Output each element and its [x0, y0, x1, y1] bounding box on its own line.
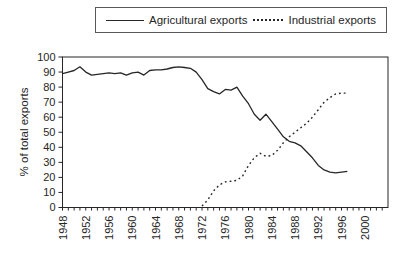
x-tick-label: 1980: [243, 216, 255, 240]
industrial-exports-line: [202, 93, 347, 206]
y-tick-label: 70: [43, 96, 55, 108]
x-tick-label: 1956: [103, 216, 115, 240]
x-tick-label: 1968: [173, 216, 185, 240]
x-tick-label: 1988: [289, 216, 301, 240]
x-tick-label: 1972: [196, 216, 208, 240]
y-tick-label: 0: [49, 201, 55, 213]
y-tick-label: 60: [43, 111, 55, 123]
x-tick-label: 1964: [150, 216, 162, 240]
x-tick-label: 1960: [126, 216, 138, 240]
x-tick-label: 1984: [266, 216, 278, 240]
x-tick-label: 1992: [312, 216, 324, 240]
plot-frame: [63, 57, 389, 208]
y-tick-label: 90: [43, 66, 55, 78]
y-tick-label: 50: [43, 126, 55, 138]
y-tick-label: 10: [43, 186, 55, 198]
y-tick-label: 30: [43, 156, 55, 168]
x-tick-label: 1948: [57, 216, 69, 240]
x-tick-label: 1976: [219, 216, 231, 240]
y-tick-label: 80: [43, 81, 55, 93]
agricultural-exports-line: [63, 67, 348, 173]
y-tick-label: 20: [43, 171, 55, 183]
x-tick-label: 2000: [359, 216, 371, 240]
export-shares-chart: Agricultural exports Industrial exports …: [0, 0, 409, 257]
x-tick-label: 1996: [336, 216, 348, 240]
y-tick-label: 40: [43, 141, 55, 153]
x-tick-label: 1952: [80, 216, 92, 240]
chart-plot-svg: 0102030405060708090100194819521956196019…: [0, 0, 409, 257]
y-tick-label: 100: [37, 51, 55, 63]
